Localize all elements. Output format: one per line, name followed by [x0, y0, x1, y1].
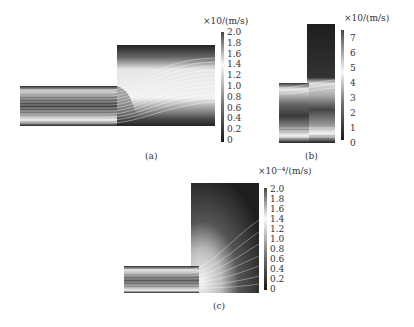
colorbar-ticks-b: 7 6 5 4 3 2 1 0 — [350, 34, 356, 154]
unit-label-c: ×10⁻⁴/(m/s) — [258, 166, 312, 176]
colorbar-ticks-c: 2.0 1.8 1.6 1.4 1.2 1.0 0.8 0.6 0.4 0.2 … — [270, 185, 284, 295]
colorbar-a — [221, 32, 224, 142]
colorbar-c — [264, 188, 267, 290]
caption-c: (c) — [213, 301, 225, 311]
panel-c: ×10⁻⁴/(m/s) 2.0 1.8 1.6 1.4 1.2 1.0 0.8 … — [100, 160, 400, 327]
contour-plot-b — [270, 0, 414, 170]
panel-b: ×10/(m/s) 7 6 5 4 3 2 1 0 (b) — [270, 0, 414, 170]
colorbar-b — [341, 30, 344, 140]
panel-a: ×10/(m/s) 2.0 1.8 1.6 1.4 1.2 1.0 0.8 0.… — [0, 0, 270, 165]
unit-label-b: ×10/(m/s) — [344, 13, 389, 23]
colorbar-ticks-a: 2.0 1.8 1.6 1.4 1.2 1.0 0.8 0.6 0.4 0.2 … — [227, 28, 241, 147]
contour-plot-c — [100, 160, 400, 327]
unit-label-a: ×10/(m/s) — [203, 16, 248, 26]
